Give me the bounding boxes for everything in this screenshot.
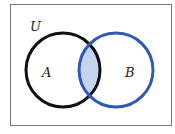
universe-label: U — [30, 19, 42, 34]
set-b-label: B — [124, 65, 135, 80]
venn-diagram: U A B — [0, 0, 175, 134]
set-a-label: A — [41, 65, 51, 80]
